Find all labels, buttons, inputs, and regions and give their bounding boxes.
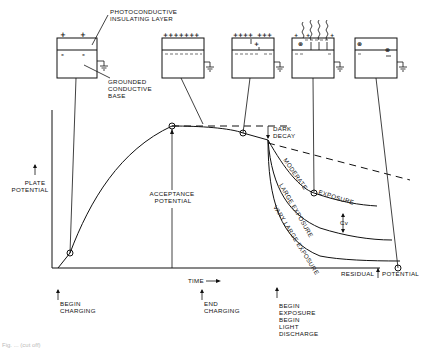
svg-text:⊕: ⊕ xyxy=(357,40,362,47)
moderate-exposure-label: EXPOSURE xyxy=(318,188,355,205)
label-grounded: GROUNDED xyxy=(108,78,147,85)
begin-charging-label-1: BEGIN xyxy=(60,300,81,307)
y-axis-label-potential: POTENTIAL xyxy=(11,186,48,193)
diagram-canvas: + + - - PHOTOCONDUCTIVE INSULATING LAYER… xyxy=(0,0,436,350)
decay-label: DECAY xyxy=(273,132,295,139)
svg-text:⊕: ⊕ xyxy=(298,40,303,47)
y-axis-label-plate: PLATE xyxy=(25,179,46,186)
label-base: BASE xyxy=(108,92,126,99)
light-ray-icon xyxy=(302,22,304,38)
x-axis-label-time: TIME xyxy=(188,277,204,284)
plate-residual: ⊕ ⊕ xyxy=(355,38,407,268)
svg-text:-: - xyxy=(61,51,64,59)
dark-decay-curve xyxy=(172,126,268,140)
figure-caption: Fig. ... (cut off) xyxy=(2,342,41,348)
svg-text:++++: ++++ xyxy=(233,31,253,38)
svg-text:+: + xyxy=(80,31,86,39)
svg-text:-: - xyxy=(82,51,85,59)
begin-exposure-label-3: BEGIN xyxy=(279,316,300,323)
residual-potential-label: POTENTIAL xyxy=(382,270,419,277)
begin-exposure-label-5: DISCHARGE xyxy=(279,330,319,337)
end-charging-label-2: CHARGING xyxy=(204,307,240,314)
svg-text:+: + xyxy=(306,32,310,38)
svg-text:+: + xyxy=(60,31,66,39)
plate-end-charging: +++++++ xyxy=(162,31,214,124)
svg-text:+: + xyxy=(330,32,334,38)
cv-label: Cv xyxy=(340,219,349,226)
svg-text:+: + xyxy=(254,40,259,47)
acceptance-label: ACCEPTANCE xyxy=(150,190,195,197)
plate-1-leader xyxy=(70,78,76,253)
svg-text:+++++++: +++++++ xyxy=(163,31,200,38)
label-photoconductive: PHOTOCONDUCTIVE xyxy=(110,8,177,15)
end-charging-label-1: END xyxy=(204,300,218,307)
plate-exposure: + + + ⊕ xyxy=(292,20,344,192)
svg-text:⊕: ⊕ xyxy=(385,46,390,53)
plate-dark-decay: ++++ +++ + xyxy=(232,31,284,133)
begin-charging-label-2: CHARGING xyxy=(60,307,96,314)
begin-exposure-label-4: LIGHT xyxy=(279,323,299,330)
potential-label: POTENTIAL xyxy=(154,197,191,204)
label-insulating-layer: INSULATING LAYER xyxy=(110,15,173,22)
svg-text:+++: +++ xyxy=(257,31,272,38)
plate-begin-charging: + + - - xyxy=(57,15,110,253)
begin-exposure-label-2: EXPOSURE xyxy=(279,309,316,316)
begin-exposure-label-1: BEGIN xyxy=(279,302,300,309)
residual-label: RESIDUAL xyxy=(341,270,375,277)
svg-text:+: + xyxy=(294,32,298,38)
dark-label: DARK xyxy=(273,125,292,132)
label-conductive: CONDUCTIVE xyxy=(108,85,152,92)
